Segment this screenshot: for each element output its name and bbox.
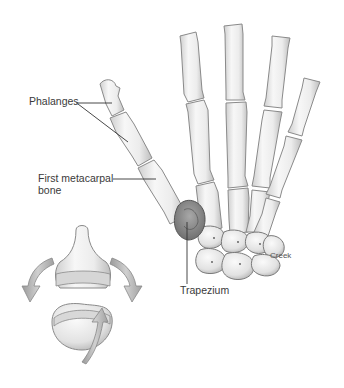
label-first-metacarpal-line2: bone (38, 184, 61, 196)
thumb-bones (100, 80, 186, 224)
rotation-arrow-right-icon (110, 258, 142, 302)
trapezium-bone (174, 200, 205, 240)
label-trapezium: Trapezium (180, 284, 229, 296)
hand-bones-figure: Phalanges First metacarpal bone Trapeziu… (0, 0, 344, 388)
saddle-joint-inset (22, 226, 142, 365)
label-phalanges: Phalanges (29, 95, 79, 107)
middle-finger-bones (224, 24, 249, 234)
label-first-metacarpal-line1: First metacarpal (38, 172, 113, 184)
artist-credit: Creek (270, 250, 291, 262)
rotation-arrow-left-icon (22, 258, 54, 302)
